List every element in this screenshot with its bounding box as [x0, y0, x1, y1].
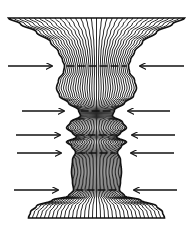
- vase-line: [112, 18, 180, 218]
- vase-illustration: [0, 0, 193, 235]
- vase-vertical-lines: [9, 18, 185, 218]
- pointing-arrows: [8, 66, 184, 190]
- vase-line: [14, 18, 82, 218]
- vase-faces-illusion-figure: [0, 0, 193, 235]
